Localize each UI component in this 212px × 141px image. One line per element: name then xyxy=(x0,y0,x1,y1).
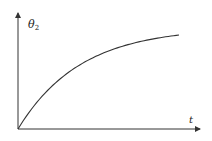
data-curve xyxy=(18,35,179,129)
y-axis-label: θ2 xyxy=(28,18,39,32)
chart-canvas: θ2 t xyxy=(0,0,212,141)
x-axis-label: t xyxy=(189,114,194,125)
